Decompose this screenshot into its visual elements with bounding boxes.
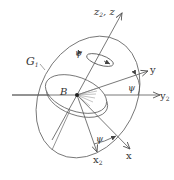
spin-arrow-icon <box>104 61 110 64</box>
z-axis <box>77 13 122 95</box>
psi-right-label: ψ <box>128 83 136 93</box>
x-axis-label: x <box>126 150 132 161</box>
origin-point <box>75 93 79 97</box>
psi-bottom-label: ψ <box>96 134 104 144</box>
psi-arc-right <box>136 75 140 95</box>
y-axis-label: y <box>149 64 156 75</box>
x2-axis-label: x2 <box>93 154 103 166</box>
psi-top-label: ψ <box>75 48 83 58</box>
gyroscope-diagram: z2, z G1 B ψ ψ ψ y y2 x x2 <box>0 0 174 180</box>
body-label: B <box>59 86 67 97</box>
g1-leader <box>40 64 45 70</box>
y2-axis-label: y2 <box>159 90 170 102</box>
z-axis-label: z2, z <box>93 6 115 18</box>
gimbal-label: G1 <box>26 55 39 68</box>
